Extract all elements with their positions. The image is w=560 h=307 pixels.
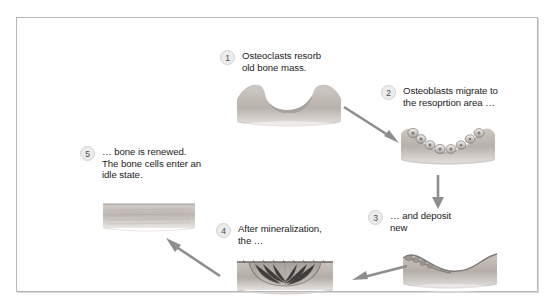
- step-number-3: 3: [368, 210, 383, 225]
- step-5: 5 … bone is renewed. The bone cells ente…: [80, 146, 201, 181]
- arrow-step3-to-step4: [350, 264, 408, 282]
- step-2: 2 Osteoblasts migrate to the resoprtion …: [381, 85, 498, 108]
- arrow-step1-to-step2: [343, 106, 401, 146]
- step-number-2: 2: [381, 85, 396, 100]
- bone-renewed-illustration: [101, 200, 197, 234]
- step-4: 4 After mineralization, the …: [216, 223, 322, 246]
- step-caption-5: … bone is renewed. The bone cells enter …: [102, 146, 201, 181]
- step-number-5: 5: [80, 146, 95, 161]
- arrow-step4-to-step5: [164, 236, 222, 278]
- bone-mineralizing-seam-illustration: [235, 256, 335, 302]
- step-number-1: 1: [220, 50, 235, 65]
- step-3: 3 … and deposit new: [368, 210, 451, 233]
- step-caption-3: … and deposit new: [390, 210, 451, 233]
- step-1: 1 Osteoclasts resorb old bone mass.: [220, 50, 321, 73]
- diagram-frame: 1 Osteoclasts resorb old bone mass. 2 Os…: [16, 17, 538, 292]
- arrow-step2-to-step3: [430, 175, 446, 210]
- bone-new-osteoid-illustration: [401, 250, 499, 296]
- bone-with-osteoblasts-illustration: [399, 124, 497, 172]
- step-caption-1: Osteoclasts resorb old bone mass.: [242, 50, 321, 73]
- bone-resorbed-pit-illustration: [235, 82, 343, 134]
- step-caption-2: Osteoblasts migrate to the resoprtion ar…: [403, 85, 498, 108]
- step-caption-4: After mineralization, the …: [238, 223, 322, 246]
